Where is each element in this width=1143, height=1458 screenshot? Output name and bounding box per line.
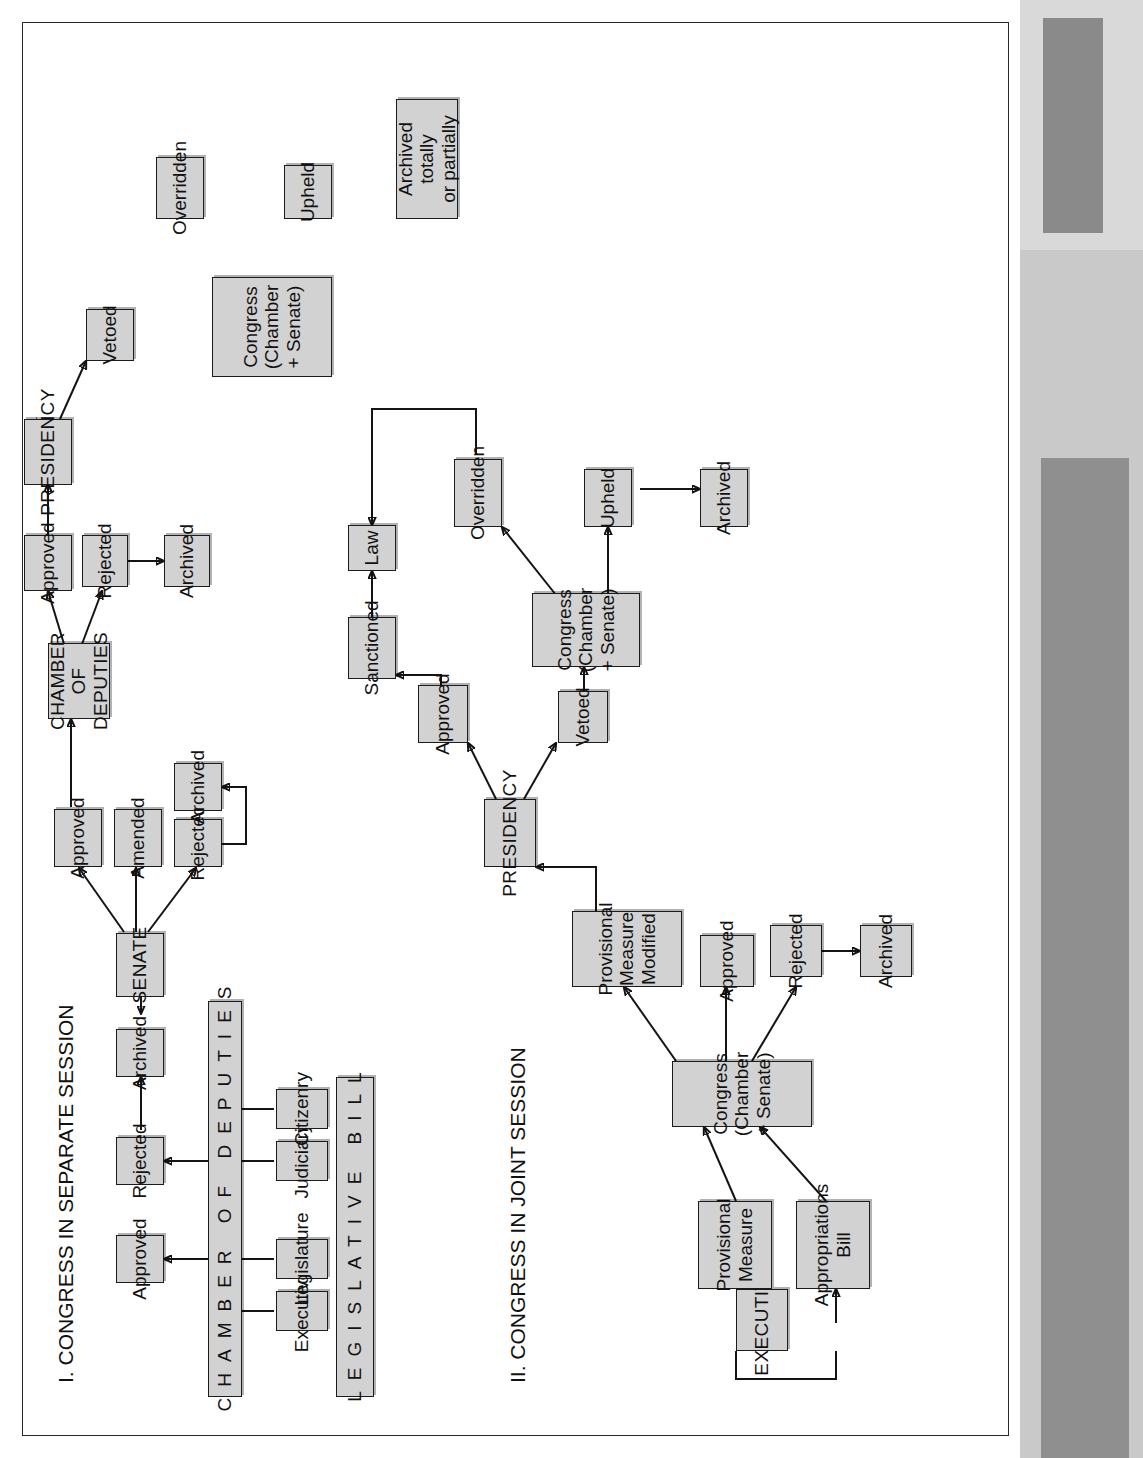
congress-outcome-pm-modified[interactable]: Provisional Measure Modified [572, 911, 682, 987]
presidency-outcome-approved-part-2[interactable]: Approved [418, 685, 468, 743]
diagram-rotation-wrapper: I. CONGRESS IN SEPARATE SESSION LEGISLAT… [23, 23, 1008, 1435]
senate-outcome-amended[interactable]: Amended [114, 809, 162, 867]
veto-outcome-overridden-part-2[interactable]: Overridden [454, 459, 502, 527]
law-part-2[interactable]: Law [348, 525, 396, 571]
archived-totally-or-partially[interactable]: Archived totally or partially [396, 99, 458, 219]
figure-number-tab [1043, 18, 1103, 233]
instrument-provisional-measure[interactable]: Provisional Measure [698, 1201, 772, 1289]
chamber-outcome-rejected[interactable]: Rejected [116, 1137, 164, 1185]
instrument-appropriations-bill[interactable]: Appropriations Bill [796, 1201, 870, 1289]
figure-page: FIGURE 15.8 The Legislative Process in B… [0, 0, 1143, 1458]
section-title-part-2: II. CONGRESS IN JOINT SESSION [506, 1047, 530, 1383]
stage-presidency-part-1[interactable]: PRESIDENCY [24, 419, 72, 485]
congress-joint-part-1[interactable]: Congress (Chamber + Senate) [212, 277, 332, 377]
figure-caption-band [1041, 458, 1129, 1458]
senate-outcome-archived[interactable]: Archived [174, 763, 222, 811]
section-title-part-1: I. CONGRESS IN SEPARATE SESSION [54, 1005, 78, 1383]
originator-legislature[interactable]: Legislature [276, 1239, 328, 1279]
chamber-stage-outcome-approved[interactable]: Approved [24, 535, 72, 591]
veto-outcome-upheld-part-1[interactable]: Upheld [284, 165, 332, 219]
presidency-outcome-vetoed-part-1[interactable]: Vetoed [86, 309, 134, 361]
congress-override-part-2[interactable]: Congress (Chamber + Senate) [532, 593, 640, 667]
banner-legislative-bill: LEGISLATIVE BILL [336, 1077, 374, 1397]
banner-chamber-of-deputies: CHAMBER OF DEPUTIES [208, 1001, 242, 1397]
figure-plate: I. CONGRESS IN SEPARATE SESSION LEGISLAT… [22, 22, 1009, 1436]
congress-outcome-archived-part-2[interactable]: Archived [860, 925, 912, 977]
veto-outcome-upheld-part-2[interactable]: Upheld [584, 469, 632, 527]
originator-judiciary[interactable]: Judiciary [276, 1141, 328, 1181]
congress-part-2[interactable]: Congress (Chamber + Senate) [672, 1061, 812, 1127]
stage-presidency-part-2[interactable]: PRESIDENCY [484, 799, 536, 867]
sanctioned-part-2[interactable]: Sanctioned [348, 617, 396, 679]
senate-outcome-approved[interactable]: Approved [54, 809, 102, 867]
presidency-outcome-vetoed-part-2[interactable]: Vetoed [558, 691, 608, 743]
senate-outcome-rejected[interactable]: Rejected [174, 819, 222, 867]
stage-senate[interactable]: SENATE [116, 933, 164, 997]
chamber-outcome-archived[interactable]: Archived [116, 1029, 164, 1077]
veto-outcome-archived-part-2[interactable]: Archived [700, 469, 748, 527]
executive-part-2[interactable]: EXECUTIVE [736, 1289, 788, 1351]
chamber-stage-outcome-archived[interactable]: Archived [164, 535, 210, 587]
originator-citizenry[interactable]: Citizenry [276, 1089, 328, 1129]
congress-outcome-approved-part-2[interactable]: Approved [700, 935, 754, 987]
congress-outcome-rejected-part-2[interactable]: Rejected [770, 925, 822, 977]
chamber-outcome-approved[interactable]: Approved [116, 1235, 164, 1283]
stage-chamber-of-deputies[interactable]: CHAMBER OF DEPUTIES [48, 643, 110, 719]
chamber-stage-outcome-rejected[interactable]: Rejected [82, 535, 128, 587]
figure-number-label: FIGURE 15.8 [1053, 0, 1113, 20]
veto-outcome-overridden-part-1[interactable]: Overridden [156, 157, 204, 219]
diagram-canvas: I. CONGRESS IN SEPARATE SESSION LEGISLAT… [36, 39, 996, 1419]
